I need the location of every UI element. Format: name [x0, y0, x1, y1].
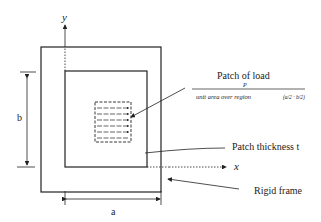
- rigid-frame-label: Rigid frame: [254, 185, 303, 196]
- region-expression: (a/2 · b/2): [283, 94, 305, 101]
- inner-plate: [65, 71, 147, 167]
- dimension-a-label: a: [111, 206, 116, 217]
- load-numerator: P: [242, 82, 247, 88]
- rigid-frame-leader: [168, 179, 239, 189]
- plate-diagram: y x b a Patch of load P unit area over r…: [0, 0, 321, 222]
- patch-thickness-leader: [145, 148, 225, 153]
- patch-thickness-label: Patch thickness t: [232, 141, 299, 152]
- y-axis-label: y: [61, 11, 67, 23]
- patch-of-load-leader: [131, 88, 185, 117]
- x-axis-label: x: [233, 160, 239, 172]
- load-denominator: unit area over region: [196, 93, 251, 100]
- dimension-b-label: b: [17, 112, 22, 123]
- load-patch: [95, 102, 131, 142]
- outer-frame: [41, 47, 161, 192]
- patch-of-load-label: Patch of load: [217, 70, 270, 81]
